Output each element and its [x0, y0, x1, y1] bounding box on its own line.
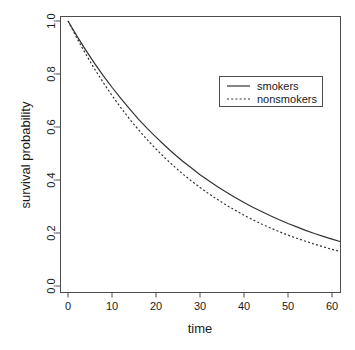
- y-tick-label: 0.4: [45, 172, 57, 187]
- x-tick-label: 0: [65, 300, 71, 312]
- curve-nonsmokers: [68, 21, 341, 252]
- y-tick-label: 1.0: [45, 13, 57, 28]
- y-axis-title: survival probability: [18, 101, 33, 208]
- y-tick-label: 0.0: [45, 278, 57, 293]
- survival-curve-chart: 0102030405060 0.00.20.40.60.81.0 time su…: [0, 0, 355, 350]
- legend-label-nonsmokers: nonsmokers: [257, 93, 317, 105]
- curve-smokers: [68, 21, 341, 242]
- data-curves: [68, 21, 341, 252]
- y-tick-label: 0.2: [45, 225, 57, 240]
- chart-canvas: 0102030405060 0.00.20.40.60.81.0 time su…: [0, 0, 355, 350]
- plot-frame: [61, 17, 341, 293]
- x-tick-label: 20: [150, 300, 162, 312]
- legend-label-smokers: smokers: [257, 80, 299, 92]
- chart-legend[interactable]: smokers nonsmokers: [220, 77, 323, 107]
- x-tick-label: 40: [238, 300, 250, 312]
- x-tick-label: 60: [326, 300, 338, 312]
- x-tick-label: 30: [194, 300, 206, 312]
- x-tick-label: 50: [282, 300, 294, 312]
- y-tick-label: 0.8: [45, 66, 57, 81]
- y-axis-ticks: 0.00.20.40.60.81.0: [45, 13, 61, 293]
- y-tick-label: 0.6: [45, 119, 57, 134]
- x-tick-label: 10: [106, 300, 118, 312]
- x-axis-ticks: 0102030405060: [65, 293, 338, 312]
- x-axis-title: time: [188, 321, 213, 336]
- plot-frame-group: [61, 17, 341, 293]
